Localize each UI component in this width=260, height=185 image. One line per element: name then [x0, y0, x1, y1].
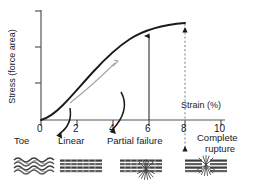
toe-pointer-arrow: [59, 108, 71, 134]
fiber-illustration-toe: [14, 158, 54, 174]
y-axis-ticks: [35, 11, 41, 83]
stage-label-complete-rupture-line1: Complete: [197, 133, 238, 143]
x-axis-label: Strain (%): [181, 101, 221, 110]
fiber-illustration-partial-failure: [120, 159, 162, 180]
fiber-illustration-complete-rupture: [185, 156, 227, 176]
x-tick-label-6: 6: [145, 124, 151, 134]
x-tick-label-2: 2: [73, 124, 79, 134]
figure-canvas: [0, 0, 260, 185]
stress-strain-figure: Stress (force area) Strain (%) 0 2 4 6 8…: [0, 0, 260, 185]
x-tick-label-0: 0: [37, 124, 43, 134]
stage-label-complete-rupture-line2: rupture: [205, 144, 235, 154]
y-axis-label: Stress (force area): [8, 17, 17, 117]
stage-label-linear: Linear: [58, 136, 84, 146]
stage-label-toe: Toe: [14, 136, 29, 146]
x-tick-label-4: 4: [109, 124, 115, 134]
stress-strain-curve: [41, 23, 185, 120]
linear-region-tangent: [70, 63, 115, 103]
fiber-illustration-linear: [60, 159, 102, 173]
x-tick-label-8: 8: [181, 124, 187, 134]
stage-label-partial-failure: Partial failure: [107, 136, 162, 146]
